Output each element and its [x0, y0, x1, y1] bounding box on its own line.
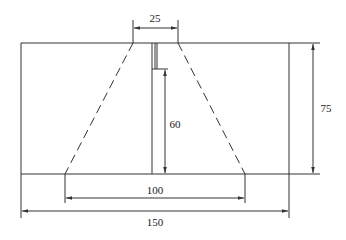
slot — [152, 43, 168, 174]
outer-block — [21, 43, 320, 218]
technical-drawing: 25 60 75 100 150 — [0, 0, 346, 240]
label-bottom-width: 100 — [147, 184, 164, 196]
label-total-height: 75 — [321, 102, 333, 114]
label-total-width: 150 — [147, 216, 164, 228]
label-slot-depth: 60 — [170, 118, 182, 130]
label-top-width: 25 — [150, 12, 162, 24]
